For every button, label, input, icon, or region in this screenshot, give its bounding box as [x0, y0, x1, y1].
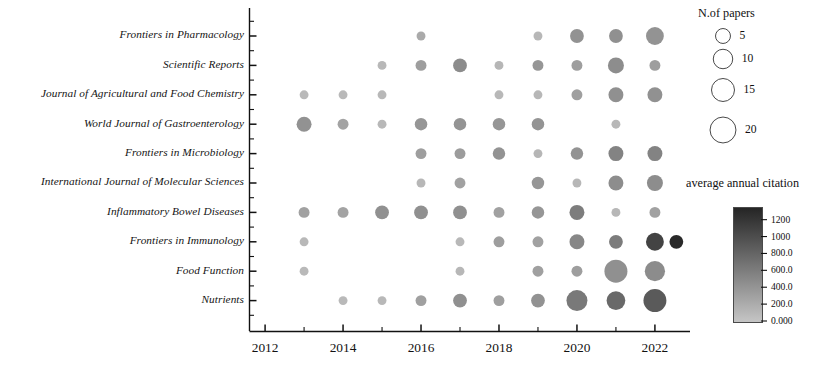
colorbar-ticks: [0, 0, 827, 365]
colorbar-tick-label: 1200: [771, 214, 790, 225]
colorbar-tick-label: 1000: [771, 231, 790, 242]
colorbar-tick-label: 600.0: [771, 264, 793, 275]
colorbar-tick-label: 0.000: [771, 315, 793, 326]
colorbar-tick-label: 200.0: [771, 298, 793, 309]
bubble-chart: Frontiers in PharmacologyScientific Repo…: [0, 0, 827, 365]
colorbar-tick-label: 400.0: [771, 281, 793, 292]
colorbar-tick-label: 800.0: [771, 247, 793, 258]
